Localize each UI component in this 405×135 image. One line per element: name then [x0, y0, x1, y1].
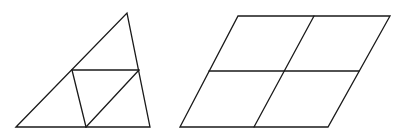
triangle-midline-right [86, 70, 139, 127]
triangle-midline-left [72, 70, 86, 127]
diagram-canvas [0, 0, 405, 135]
subdivided-parallelogram [180, 16, 390, 127]
subdivided-triangle [16, 13, 150, 127]
